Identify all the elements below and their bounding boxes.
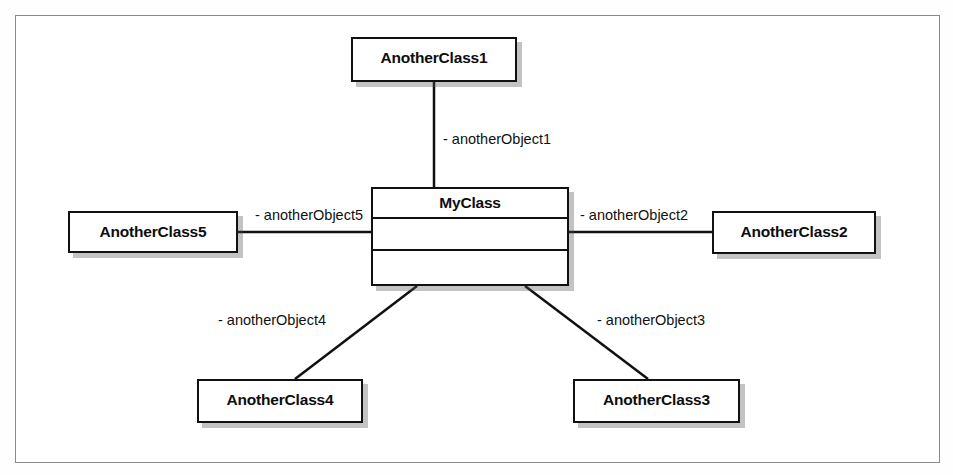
association-label-obj2: - anotherObject2 — [580, 207, 688, 223]
association-label-obj4: - anotherObject4 — [218, 312, 326, 328]
association-label-obj3: - anotherObject3 — [597, 312, 705, 328]
class-box-anotherclass3[interactable]: AnotherClass3 — [573, 379, 740, 423]
class-name-anotherclass3: AnotherClass3 — [575, 381, 738, 419]
class-box-anotherclass4[interactable]: AnotherClass4 — [197, 379, 363, 423]
class-box-myclass[interactable]: MyClass — [371, 187, 569, 286]
class-attributes-compartment — [373, 219, 567, 251]
class-name-myclass: MyClass — [373, 189, 567, 219]
association-label-obj5: - anotherObject5 — [255, 207, 363, 223]
association-label-obj1: - anotherObject1 — [443, 131, 551, 147]
class-box-anotherclass2[interactable]: AnotherClass2 — [712, 211, 876, 254]
class-name-anotherclass2: AnotherClass2 — [714, 213, 874, 251]
figure-page: MyClass AnotherClass1 AnotherClass5 Anot… — [0, 0, 953, 475]
association-line-obj3 — [525, 286, 648, 379]
association-line-obj4 — [295, 286, 417, 379]
class-operations-compartment — [373, 251, 567, 283]
class-box-anotherclass5[interactable]: AnotherClass5 — [68, 211, 238, 253]
class-name-anotherclass4: AnotherClass4 — [199, 381, 361, 419]
class-name-anotherclass1: AnotherClass1 — [353, 39, 515, 77]
class-name-anotherclass5: AnotherClass5 — [70, 213, 236, 251]
class-box-anotherclass1[interactable]: AnotherClass1 — [351, 37, 517, 82]
